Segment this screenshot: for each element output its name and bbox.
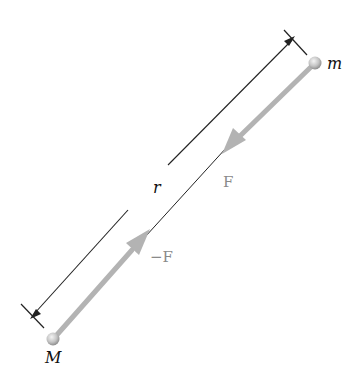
label-M: M <box>44 348 62 367</box>
distance-dimension-line <box>21 30 307 328</box>
gravitation-diagram: m M r F −F <box>0 0 358 382</box>
mass-M-ball <box>47 333 60 346</box>
label-r: r <box>153 178 162 197</box>
force-negF-arrow <box>55 229 150 337</box>
force-F-arrow <box>222 64 314 154</box>
mass-m-ball <box>309 57 322 70</box>
label-m: m <box>327 54 342 73</box>
label-F: F <box>223 173 233 191</box>
label-negF: −F <box>150 248 173 266</box>
arrowhead-bottom-icon <box>30 309 41 319</box>
